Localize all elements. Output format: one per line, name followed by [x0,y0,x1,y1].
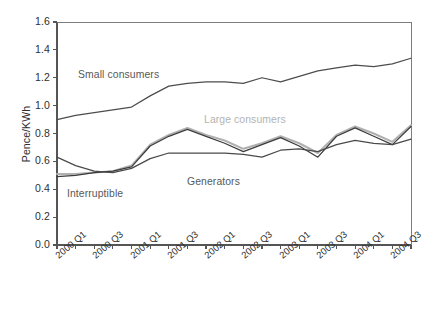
series-line [57,127,411,177]
series-line [57,58,411,119]
series-label: Small consumers [78,69,159,80]
series-label: Large consumers [204,114,286,125]
series-label: Interruptible [67,188,123,199]
y-tick-label: 0.8 [35,127,50,139]
series-label: Generators [187,176,240,187]
y-tick-label: 0.4 [35,182,50,194]
plot-area [0,0,430,309]
y-tick-label: 0.0 [35,238,50,250]
y-tick-label: 0.2 [35,210,50,222]
y-tick-label: 1.2 [35,71,50,83]
y-tick-label: 1.0 [35,99,50,111]
axes [53,22,411,249]
series-line [57,125,411,174]
y-tick-label: 1.6 [35,15,50,27]
y-tick-label: 1.4 [35,43,50,55]
line-chart: 0.00.20.40.60.81.01.21.41.6 2000 Q12000 … [0,0,430,309]
y-tick-label: 0.6 [35,154,50,166]
